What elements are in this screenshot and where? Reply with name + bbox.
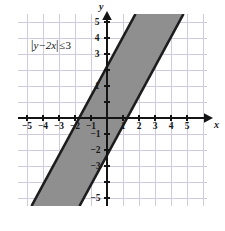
x-tick-label-5: 5 <box>181 122 193 132</box>
x-tick-label-1: 1 <box>117 122 129 132</box>
x-tick-label-3: 3 <box>149 122 161 132</box>
relation-symbol: ≤ <box>59 39 66 51</box>
minus-sign: − <box>38 39 45 51</box>
coordinate-plane-graphic <box>0 0 225 231</box>
y-tick-label-5: 5 <box>91 18 103 28</box>
x-axis-label: x <box>214 120 219 130</box>
x-tick-label-neg5: −5 <box>20 122 34 132</box>
x-tick-label-2: 2 <box>133 122 145 132</box>
y-tick-label-3: 3 <box>91 50 103 60</box>
constant-three: 3 <box>66 39 72 51</box>
y-tick-label-neg3: −3 <box>88 162 103 172</box>
y-tick-label-1: 1 <box>91 82 103 92</box>
math-figure: |y−2x|≤3 −5 −4 −3 −2 −1 1 2 3 4 5 5 4 3 … <box>0 0 225 231</box>
x-tick-label-4: 4 <box>165 122 177 132</box>
x-tick-label-neg2: −2 <box>68 122 82 132</box>
y-tick-label-4: 4 <box>91 34 103 44</box>
x-tick-label-neg3: −3 <box>52 122 66 132</box>
term-2x: 2x <box>46 39 56 51</box>
y-tick-label-neg2: −2 <box>88 146 103 156</box>
y-tick-label-neg1: −1 <box>88 130 103 140</box>
y-axis-label: y <box>99 2 103 12</box>
inequality-annotation: |y−2x|≤3 <box>31 39 71 52</box>
x-tick-label-neg4: −4 <box>36 122 50 132</box>
x-axis-arrowhead <box>204 113 213 123</box>
y-tick-label-neg5: −5 <box>88 194 103 204</box>
